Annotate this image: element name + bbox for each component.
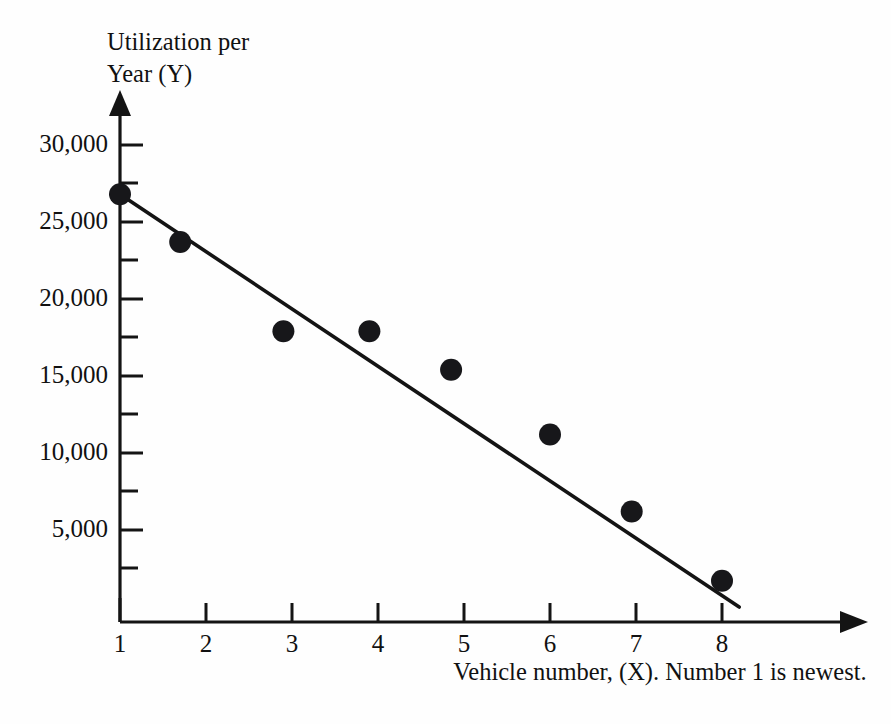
y-axis-arrow-icon [109,90,131,116]
data-point-4 [358,320,380,342]
y-tick-label-20000: 20,000 [39,284,108,311]
data-point-1 [109,183,131,205]
data-point-2 [169,231,191,253]
x-tick-label-8: 8 [716,630,729,657]
y-tick-label-25000: 25,000 [39,207,108,234]
scatter-plot-canvas: Utilization per Year (Y) 30,000 25 [0,0,891,724]
x-tick-label-3: 3 [286,630,299,657]
chart-figure: Utilization per Year (Y) 30,000 25 [0,0,891,724]
x-tick-label-2: 2 [200,630,213,657]
x-tick-label-5: 5 [458,630,471,657]
x-tick-label-7: 7 [630,630,643,657]
trend-line [120,194,739,607]
y-axis-title-line2: Year (Y) [107,60,192,88]
x-tick-label-1: 1 [114,630,127,657]
data-point-6 [539,424,561,446]
x-axis-title: Vehicle number, (X). Number 1 is newest. [453,658,866,686]
x-axis-ticks [120,598,722,622]
data-point-group [109,183,733,592]
y-tick-label-15000: 15,000 [39,361,108,388]
data-point-8 [711,570,733,592]
x-axis-arrow-icon [840,611,868,633]
y-tick-label-30000: 30,000 [39,130,108,157]
y-tick-label-5000: 5,000 [52,515,108,542]
y-tick-label-10000: 10,000 [39,438,108,465]
y-axis-title-line1: Utilization per [107,28,249,55]
data-point-3 [272,320,294,342]
x-tick-label-6: 6 [544,630,557,657]
data-point-5 [440,359,462,381]
x-tick-label-4: 4 [372,630,385,657]
data-point-7 [621,501,643,523]
